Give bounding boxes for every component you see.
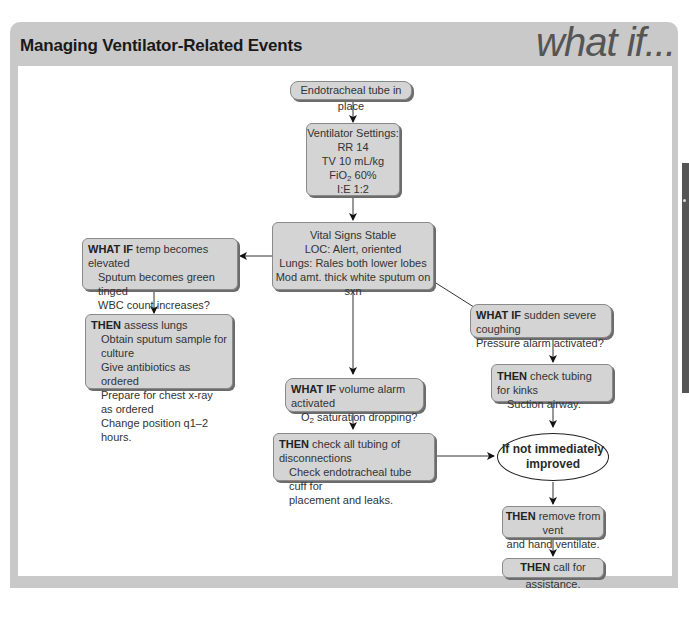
then-assist-node: THEN call for assistance. xyxy=(502,558,604,578)
then-keyword: THEN xyxy=(506,510,536,522)
status-loc: LOC: Alert, oriented xyxy=(273,242,433,256)
then-keyword: THEN xyxy=(91,319,121,331)
whatif-keyword: WHAT IF xyxy=(88,243,133,255)
then-pressure-node: THEN check tubing for kinks Suction airw… xyxy=(491,364,613,402)
decision-node: If not immediately improved xyxy=(497,433,609,481)
whatif-keyword: WHAT IF xyxy=(476,309,521,321)
then-volume-node: THEN check all tubing of disconnections … xyxy=(273,433,435,481)
start-node: Endotracheal tube in place xyxy=(290,81,412,100)
then-infection-node: THEN assess lungs Obtain sputum sample f… xyxy=(85,314,233,389)
then-keyword: THEN xyxy=(497,370,527,382)
settings-fio2: FiO2 60% xyxy=(307,168,399,182)
settings-ie: I:E 1:2 xyxy=(307,182,399,196)
then-remove-node: THEN remove from vent and hand ventilate… xyxy=(502,506,604,538)
ventilator-settings-node: Ventilator Settings: RR 14 TV 10 mL/kg F… xyxy=(306,123,400,196)
status-lungs: Lungs: Rales both lower lobes xyxy=(273,256,433,270)
status-vitals: Vital Signs Stable xyxy=(273,228,433,242)
settings-tv: TV 10 mL/kg xyxy=(307,154,399,168)
settings-rr: RR 14 xyxy=(307,140,399,154)
whatif-keyword: WHAT IF xyxy=(291,383,336,395)
whatif-infection-node: WHAT IF temp becomes elevated Sputum bec… xyxy=(82,238,238,290)
status-sputum: Mod amt. thick white sputum on sxn xyxy=(273,270,433,298)
settings-heading: Ventilator Settings: xyxy=(307,126,399,140)
status-node: Vital Signs Stable LOC: Alert, oriented … xyxy=(272,222,434,290)
whatif-pressure-node: WHAT IF sudden severe coughing Pressure … xyxy=(470,304,612,338)
whatif-volume-node: WHAT IF volume alarm activated O2 satura… xyxy=(285,378,424,412)
then-keyword: THEN xyxy=(520,561,550,573)
then-keyword: THEN xyxy=(279,438,309,450)
